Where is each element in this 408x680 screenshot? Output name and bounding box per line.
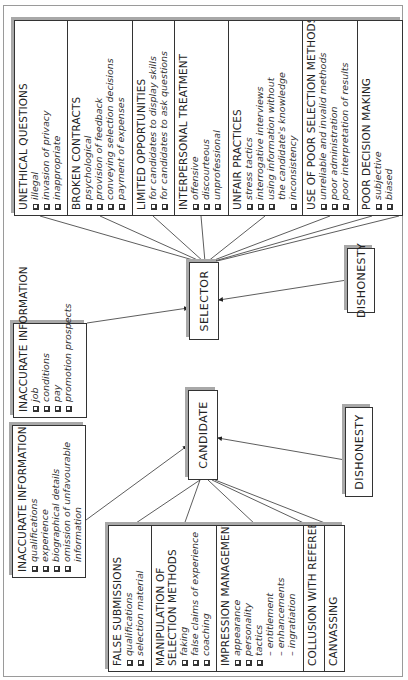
section-title: UNETHICAL QUESTIONS	[17, 26, 29, 210]
limited-opportunities-section: LIMITED OPPORTUNITIES for candidates to …	[133, 21, 175, 215]
box-title: INACCURATE INFORMATION	[16, 431, 28, 572]
list-item: coaching	[200, 613, 211, 656]
checkbox-bullet-icon	[332, 204, 338, 210]
checkbox-bullet-icon	[32, 566, 38, 572]
checkbox-bullet-icon	[33, 406, 39, 412]
checkbox-bullet-icon	[97, 204, 103, 210]
list-item: using information without	[265, 78, 276, 200]
checkbox-bullet-icon	[204, 660, 210, 666]
interpersonal-treatment-section: INTERPERSONAL TREATMENT offensive discou…	[175, 21, 229, 215]
unfair-practices-section: UNFAIR PRACTICES stress tactics interrog…	[229, 21, 303, 215]
checkbox-bullet-icon	[193, 660, 199, 666]
list-item: biographical details	[50, 469, 61, 562]
section-title: UNFAIR PRACTICES	[231, 26, 243, 210]
list-item: job	[29, 388, 40, 402]
checkbox-bullet-icon	[247, 204, 253, 210]
dishonesty-label: DISHONESTY	[353, 414, 366, 489]
candidate-issues-panel: FALSE SUBMISSIONS qualifications selecti…	[108, 525, 345, 672]
checkbox-bullet-icon	[321, 204, 327, 210]
selector-issues-panel: UNETHICAL QUESTIONS illegal invasion of …	[14, 20, 403, 216]
diagram-stage: UNETHICAL QUESTIONS illegal invasion of …	[0, 0, 408, 680]
checkbox-bullet-icon	[246, 660, 252, 666]
dishonesty-label: DISHONESTY	[355, 243, 368, 318]
list-item: faking	[178, 627, 189, 656]
candidate-dishonesty-box: DISHONESTY	[345, 407, 373, 497]
checkbox-bullet-icon	[66, 406, 72, 412]
list-item: unprofessional	[211, 130, 222, 200]
section-title: IMPRESSION MANAGEMENT	[219, 531, 231, 666]
impression-management-section: IMPRESSION MANAGEMENT appearance persona…	[217, 526, 304, 671]
list-item: for candidates to ask questions	[158, 51, 169, 200]
candidate-node: CANDIDATE	[188, 390, 218, 480]
list-item: subjective	[372, 151, 383, 200]
list-item: selection material	[134, 571, 145, 656]
list-item: unreliable and invalid methods	[317, 53, 328, 200]
selector-node: SELECTOR	[189, 262, 219, 340]
checkbox-bullet-icon	[54, 566, 60, 572]
list-item: provision of feedback	[93, 98, 104, 200]
checkbox-bullet-icon	[43, 566, 49, 572]
list-item: qualifications	[28, 499, 39, 562]
checkbox-bullet-icon	[387, 204, 393, 210]
list-item: invasion of privacy	[40, 110, 51, 200]
checkbox-bullet-icon	[343, 204, 349, 210]
checkbox-bullet-icon	[162, 204, 168, 210]
checkbox-bullet-icon	[235, 660, 241, 666]
manipulation-section: MANIPULATION OF SELECTION METHODS faking…	[152, 526, 217, 671]
list-item: qualifications	[123, 593, 134, 656]
checkbox-bullet-icon	[182, 660, 188, 666]
list-item: false claims of experience	[189, 532, 200, 656]
checkbox-bullet-icon	[55, 204, 61, 210]
list-item: pay	[51, 385, 62, 402]
sub-item: – entitlement	[264, 531, 275, 666]
unethical-questions-section: UNETHICAL QUESTIONS illegal invasion of …	[15, 21, 68, 215]
checkbox-bullet-icon	[86, 204, 92, 210]
section-title: LIMITED OPPORTUNITIES	[135, 26, 147, 210]
sub-item: – ingratiation	[286, 531, 297, 666]
selector-label: SELECTOR	[198, 271, 211, 332]
section-title: POOR DECISION MAKING	[360, 26, 372, 210]
section-title-line-2: SELECTION METHODS	[166, 531, 178, 666]
checkbox-bullet-icon	[138, 660, 144, 666]
poor-decision-making-section: POOR DECISION MAKING subjective biased	[358, 21, 402, 215]
checkbox-bullet-icon	[55, 406, 61, 412]
list-item-continuation: information	[72, 431, 83, 572]
list-item: biased	[383, 169, 394, 200]
list-item: promotion prospects	[62, 303, 73, 402]
broken-contracts-section: BROKEN CONTRACTS psychological provision…	[68, 21, 133, 215]
selector-inaccurate-information-box: INACCURATE INFORMATION job conditions pa…	[13, 323, 87, 418]
checkbox-bullet-icon	[376, 204, 382, 210]
list-item: payment of expenses	[115, 97, 126, 200]
section-title: COLLUSION WITH REFEREES	[306, 531, 318, 666]
checkbox-bullet-icon	[204, 204, 210, 210]
checkbox-bullet-icon	[33, 204, 39, 210]
sub-item: – enhancements	[275, 531, 286, 666]
list-item: conditions	[40, 353, 51, 402]
list-item: tactics	[253, 625, 264, 656]
checkbox-bullet-icon	[44, 406, 50, 412]
list-item: for candidates to display skills	[147, 56, 158, 200]
candidate-label: CANDIDATE	[197, 401, 210, 468]
list-item: experience	[39, 509, 50, 562]
list-item: stress tactics	[243, 137, 254, 200]
section-title-line-1: MANIPULATION OF	[154, 531, 166, 666]
section-title: USE OF POOR SELECTION METHODS	[305, 26, 317, 210]
list-item: poor interpretation of results	[339, 63, 350, 200]
checkbox-bullet-icon	[108, 204, 114, 210]
list-item: illegal	[29, 172, 40, 200]
false-submissions-section: FALSE SUBMISSIONS qualifications selecti…	[109, 526, 152, 671]
list-item: discourteous	[200, 139, 211, 200]
poor-selection-methods-section: USE OF POOR SELECTION METHODS unreliable…	[303, 21, 358, 215]
checkbox-bullet-icon	[65, 566, 71, 572]
selector-dishonesty-box: DISHONESTY	[347, 248, 375, 313]
checkbox-bullet-icon	[269, 204, 275, 210]
checkbox-bullet-icon	[151, 204, 157, 210]
checkbox-bullet-icon	[257, 660, 263, 666]
box-title: INACCURATE INFORMATION	[17, 329, 29, 412]
section-title: INTERPERSONAL TREATMENT	[177, 26, 189, 210]
checkbox-bullet-icon	[127, 660, 133, 666]
canvassing-section: CANVASSING	[325, 526, 344, 671]
list-item: appearance	[231, 600, 242, 656]
candidate-inaccurate-information-box: INACCURATE INFORMATION qualifications ex…	[12, 425, 86, 578]
section-title: BROKEN CONTRACTS	[70, 26, 82, 210]
